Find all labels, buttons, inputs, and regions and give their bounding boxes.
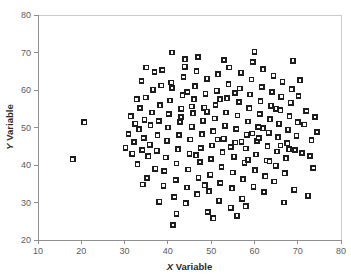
x-tick-label: 30: [120, 246, 130, 256]
data-point: [205, 77, 209, 81]
data-point: [296, 94, 300, 98]
data-point: [160, 68, 164, 72]
data-point: [168, 98, 172, 102]
data-point: [213, 116, 217, 120]
data-point: [230, 186, 234, 190]
data-point: [237, 100, 241, 104]
data-point: [246, 158, 250, 162]
data-point: [191, 111, 195, 115]
data-point: [133, 122, 137, 126]
data-point: [231, 170, 235, 174]
data-point: [291, 59, 295, 63]
data-point: [126, 132, 130, 136]
data-point: [300, 151, 304, 155]
data-point: [258, 99, 262, 103]
y-axis-ticks: 20304050607080: [21, 10, 38, 245]
data-point: [206, 210, 210, 214]
data-point-group: [71, 50, 320, 227]
data-point: [296, 120, 300, 124]
data-point: [227, 65, 231, 69]
data-point: [270, 90, 274, 94]
y-tick-label: 20: [21, 235, 31, 245]
data-point: [289, 101, 293, 105]
data-point: [174, 161, 178, 165]
data-point: [251, 60, 255, 64]
data-point: [211, 216, 215, 220]
x-axis-ticks: 1020304050607080: [33, 240, 346, 256]
data-point: [220, 150, 224, 154]
y-tick-label: 60: [21, 85, 31, 95]
data-point: [304, 109, 308, 113]
data-point: [283, 171, 287, 175]
data-point: [267, 131, 271, 135]
data-point: [261, 126, 265, 130]
data-point: [190, 104, 194, 108]
data-point: [151, 88, 155, 92]
data-point: [232, 155, 236, 159]
data-point: [162, 169, 166, 173]
data-point: [130, 152, 134, 156]
y-tick-label: 50: [21, 123, 31, 133]
data-point: [275, 149, 279, 153]
data-point: [152, 70, 156, 74]
data-point: [176, 147, 180, 151]
data-point: [286, 128, 290, 132]
data-point: [313, 115, 317, 119]
data-point: [183, 57, 187, 61]
y-tick-label: 30: [21, 198, 31, 208]
data-point: [155, 133, 159, 137]
data-point: [260, 85, 264, 89]
data-point: [185, 90, 189, 94]
data-point: [248, 92, 252, 96]
data-point: [252, 50, 256, 54]
data-point: [148, 143, 152, 147]
data-point: [179, 115, 183, 119]
data-point: [223, 124, 227, 128]
data-point: [203, 92, 207, 96]
data-point: [141, 182, 145, 186]
data-point: [250, 131, 254, 135]
data-point: [201, 119, 205, 123]
data-point: [157, 200, 161, 204]
data-point: [210, 143, 214, 147]
data-point: [71, 157, 75, 161]
data-point: [268, 117, 272, 121]
data-point: [170, 86, 174, 90]
data-point: [181, 75, 185, 79]
data-point: [302, 122, 306, 126]
data-point: [82, 120, 86, 124]
data-point: [238, 86, 242, 90]
data-point: [129, 114, 133, 118]
y-axis-title: Y Variable: [4, 104, 15, 149]
data-point: [267, 159, 271, 163]
x-tick-label: 20: [76, 246, 86, 256]
data-point: [213, 103, 217, 107]
data-point: [166, 125, 170, 129]
data-point: [308, 154, 312, 158]
data-point: [146, 154, 150, 158]
data-point: [205, 110, 209, 114]
data-point: [261, 67, 265, 71]
data-point: [209, 157, 213, 161]
data-point: [172, 195, 176, 199]
data-point: [278, 143, 282, 147]
data-point: [135, 162, 139, 166]
y-tick-label: 40: [21, 160, 31, 170]
data-point: [239, 71, 243, 75]
data-point: [311, 166, 315, 170]
data-point: [293, 148, 297, 152]
data-point: [290, 87, 294, 91]
data-point: [135, 97, 139, 101]
data-point: [279, 95, 283, 99]
data-point: [251, 185, 255, 189]
data-point: [200, 132, 204, 136]
data-point: [292, 188, 296, 192]
data-point: [244, 146, 248, 150]
data-point: [196, 55, 200, 59]
data-point: [276, 135, 280, 139]
data-point: [263, 174, 267, 178]
data-point: [240, 197, 244, 201]
data-point: [144, 95, 148, 99]
data-point: [218, 181, 222, 185]
data-point: [229, 145, 233, 149]
